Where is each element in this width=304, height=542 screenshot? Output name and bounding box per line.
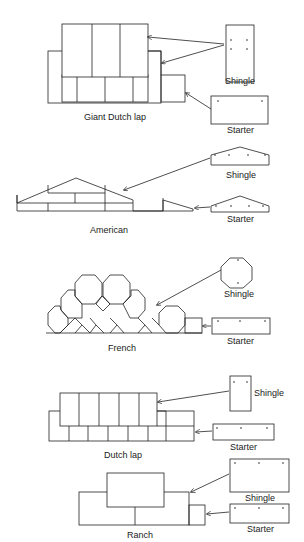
giant-dutch-shingle-label: Shingle — [225, 76, 255, 86]
american-shingle-label: Shingle — [226, 170, 256, 180]
american-assembly — [17, 178, 193, 211]
american-starter — [211, 196, 269, 212]
american-shingle — [211, 147, 269, 165]
giant-dutch-starter-label: Starter — [227, 125, 254, 135]
giant-dutch-lap-assembly — [48, 24, 185, 103]
french-shingle-label: Shingle — [224, 289, 254, 299]
french-starter-label: Starter — [227, 336, 254, 346]
french-shingle — [221, 258, 252, 288]
french-label: French — [108, 343, 136, 353]
ranch-starter — [230, 504, 289, 523]
dutch-lap-label: Dutch lap — [104, 450, 142, 460]
ranch-assembly — [79, 473, 205, 525]
ranch-starter-label: Starter — [247, 524, 274, 534]
french-starter — [212, 318, 270, 334]
nail-holes — [214, 39, 284, 509]
dutch-lap-shingle-label: Shingle — [254, 388, 284, 398]
giant-dutch-starter — [211, 96, 268, 124]
dutch-lap-assembly — [49, 393, 194, 441]
american-starter-label: Starter — [227, 214, 254, 224]
american-label: American — [90, 225, 128, 235]
dutch-lap-shingle — [230, 376, 251, 411]
ranch-shingle-label: Shingle — [245, 493, 275, 503]
dutch-lap-starter-label: Starter — [230, 442, 257, 452]
shingle-styles-diagram — [0, 0, 304, 542]
french-assembly — [46, 275, 202, 333]
giant-dutch-lap-label: Giant Dutch lap — [84, 112, 146, 122]
ranch-label: Ranch — [127, 530, 153, 540]
ranch-shingle — [230, 459, 289, 492]
dutch-lap-starter — [213, 424, 274, 440]
giant-dutch-shingle — [226, 25, 254, 82]
